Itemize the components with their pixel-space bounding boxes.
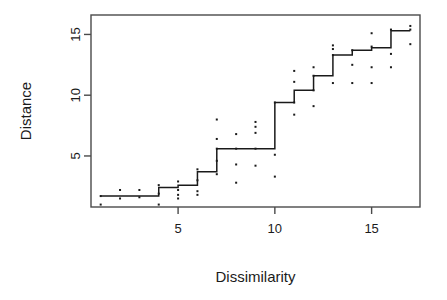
data-point	[371, 32, 373, 34]
y-tick-label: 10	[68, 88, 83, 102]
data-point	[235, 182, 237, 184]
data-point	[351, 82, 353, 84]
data-point	[100, 204, 102, 206]
chart-canvas: 5101551015DissimilarityDistance	[0, 0, 447, 300]
data-point	[313, 66, 315, 68]
data-point	[216, 138, 218, 140]
data-point	[255, 126, 257, 128]
data-point	[409, 43, 411, 45]
data-point	[177, 194, 179, 196]
data-point	[293, 114, 295, 116]
step-fit-line	[101, 31, 411, 196]
data-point	[119, 189, 121, 191]
data-point	[293, 70, 295, 72]
data-point	[274, 154, 276, 156]
data-point	[390, 53, 392, 55]
data-point	[196, 190, 198, 192]
data-point	[119, 197, 121, 199]
y-tick-label: 15	[68, 27, 83, 41]
data-point	[196, 194, 198, 196]
data-point	[235, 163, 237, 165]
x-tick-label: 10	[268, 221, 282, 236]
data-point	[235, 133, 237, 135]
y-tick-label: 5	[68, 152, 83, 159]
plot-frame	[91, 15, 420, 207]
x-tick-label: 15	[364, 221, 378, 236]
data-point	[158, 204, 160, 206]
data-point	[390, 66, 392, 68]
data-point	[255, 121, 257, 123]
data-point	[313, 105, 315, 107]
data-point	[177, 197, 179, 199]
data-point	[158, 184, 160, 186]
data-point	[371, 82, 373, 84]
data-point	[196, 168, 198, 170]
data-point	[351, 64, 353, 66]
data-point	[138, 189, 140, 191]
data-point	[274, 176, 276, 178]
data-point	[255, 165, 257, 167]
data-point	[255, 132, 257, 134]
x-tick-label: 5	[174, 221, 181, 236]
data-point	[332, 48, 334, 50]
data-point	[293, 81, 295, 83]
data-point	[177, 189, 179, 191]
data-point	[177, 180, 179, 182]
data-point	[409, 25, 411, 27]
y-axis-title: Distance	[17, 82, 34, 140]
x-axis-title: Dissimilarity	[216, 268, 296, 285]
data-point	[332, 82, 334, 84]
data-point	[371, 66, 373, 68]
shepard-diagram: 5101551015DissimilarityDistance	[0, 0, 447, 300]
data-point	[216, 119, 218, 121]
scatter-points	[100, 25, 412, 206]
data-point	[216, 173, 218, 175]
data-point	[332, 44, 334, 46]
